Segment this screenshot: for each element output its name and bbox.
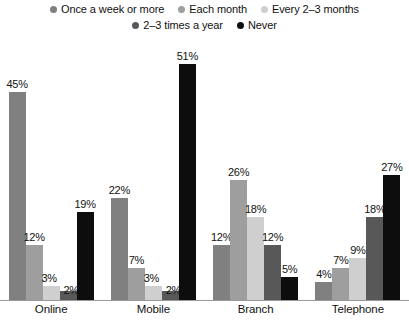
legend-item-once-a-week-or-more: Once a week or more <box>50 4 164 15</box>
bar[interactable] <box>179 64 196 300</box>
bar-slot: 2% <box>162 46 179 300</box>
category-axis-labels: OnlineMobileBranchTelephone <box>0 303 409 315</box>
legend-label-each-month: Each month <box>189 4 247 15</box>
bar[interactable] <box>43 286 60 300</box>
bar-slot: 9% <box>349 46 366 300</box>
bar-slot: 2% <box>60 46 77 300</box>
bar-slot: 45% <box>9 46 26 300</box>
bar-slot: 12% <box>264 46 281 300</box>
bar-value-label: 51% <box>177 51 198 62</box>
bar-value-label: 5% <box>282 264 298 275</box>
bar-value-label: 18% <box>364 204 385 215</box>
bar-value-label: 26% <box>228 167 249 178</box>
bar-slot: 27% <box>383 46 400 300</box>
bar-slot: 3% <box>43 46 60 300</box>
bar-slot: 3% <box>145 46 162 300</box>
bar-slot: 51% <box>179 46 196 300</box>
bar-value-label: 12% <box>262 232 283 243</box>
bar-group-mobile: 22%7%3%2%51% <box>102 46 204 300</box>
bar-group-telephone: 4%7%9%18%27% <box>307 46 409 300</box>
bar[interactable] <box>332 268 349 300</box>
bar-slot: 18% <box>366 46 383 300</box>
bar-group-inner: 22%7%3%2%51% <box>111 46 196 300</box>
bar-slot: 4% <box>315 46 332 300</box>
x-axis-baseline <box>0 300 409 301</box>
legend-row-2: 2–3 times a year Never <box>0 20 409 31</box>
bar-groups: 45%12%3%2%19%22%7%3%2%51%12%26%18%12%5%4… <box>0 46 409 300</box>
bar-value-label: 9% <box>350 245 366 256</box>
legend-swatch-never <box>237 22 244 29</box>
bar-slot: 22% <box>111 46 128 300</box>
legend-label-2-3-times-a-year: 2–3 times a year <box>143 20 223 31</box>
bar-value-label: 45% <box>6 79 27 90</box>
bar[interactable] <box>383 175 400 300</box>
bar[interactable] <box>264 245 281 300</box>
bar-slot: 7% <box>332 46 349 300</box>
bar-slot: 12% <box>26 46 43 300</box>
bar-slot: 7% <box>128 46 145 300</box>
legend-item-each-month: Each month <box>178 4 247 15</box>
bar[interactable] <box>9 92 26 300</box>
bar-group-branch: 12%26%18%12%5% <box>205 46 307 300</box>
bar-slot: 19% <box>77 46 94 300</box>
bar-value-label: 12% <box>211 232 232 243</box>
bar[interactable] <box>281 277 298 300</box>
bar-value-label: 27% <box>381 162 402 173</box>
bar[interactable] <box>26 245 43 300</box>
bar-slot: 26% <box>230 46 247 300</box>
bar-value-label: 18% <box>245 204 266 215</box>
bar-value-label: 3% <box>41 273 57 284</box>
bar-slot: 5% <box>281 46 298 300</box>
bar[interactable] <box>111 198 128 300</box>
category-label-telephone: Telephone <box>307 303 409 315</box>
bar[interactable] <box>230 180 247 300</box>
bar[interactable] <box>77 212 94 300</box>
legend-label-never: Never <box>248 20 277 31</box>
bar-value-label: 19% <box>74 199 95 210</box>
chart-legend: Once a week or more Each month Every 2–3… <box>0 0 409 36</box>
category-label-branch: Branch <box>205 303 307 315</box>
bar[interactable] <box>349 258 366 300</box>
legend-swatch-every-2-3-months <box>261 6 268 13</box>
category-label-mobile: Mobile <box>102 303 204 315</box>
bar-value-label: 22% <box>109 185 130 196</box>
plot-area: 45%12%3%2%19%22%7%3%2%51%12%26%18%12%5%4… <box>0 46 409 301</box>
legend-label-every-2-3-months: Every 2–3 months <box>272 4 359 15</box>
bar[interactable] <box>315 282 332 300</box>
bar[interactable] <box>247 217 264 300</box>
bar-group-inner: 12%26%18%12%5% <box>213 46 298 300</box>
bar-group-inner: 4%7%9%18%27% <box>315 46 400 300</box>
bar[interactable] <box>213 245 230 300</box>
category-label-online: Online <box>0 303 102 315</box>
legend-row-1: Once a week or more Each month Every 2–3… <box>0 4 409 15</box>
bar-value-label: 3% <box>144 273 160 284</box>
bar[interactable] <box>128 268 145 300</box>
bar-group-online: 45%12%3%2%19% <box>0 46 102 300</box>
bar-value-label: 4% <box>316 269 332 280</box>
bar-value-label: 12% <box>23 232 44 243</box>
legend-label-once-a-week-or-more: Once a week or more <box>61 4 164 15</box>
bar-slot: 18% <box>247 46 264 300</box>
bar-value-label: 7% <box>129 255 145 266</box>
legend-swatch-2-3-times-a-year <box>132 22 139 29</box>
grouped-bar-chart: Once a week or more Each month Every 2–3… <box>0 0 409 330</box>
bar-group-inner: 45%12%3%2%19% <box>9 46 94 300</box>
bar[interactable] <box>366 217 383 300</box>
legend-item-never: Never <box>237 20 277 31</box>
legend-item-every-2-3-months: Every 2–3 months <box>261 4 359 15</box>
legend-swatch-once-a-week-or-more <box>50 6 57 13</box>
bar[interactable] <box>145 286 162 300</box>
legend-swatch-each-month <box>178 6 185 13</box>
legend-item-2-3-times-a-year: 2–3 times a year <box>132 20 223 31</box>
bar-value-label: 7% <box>333 255 349 266</box>
